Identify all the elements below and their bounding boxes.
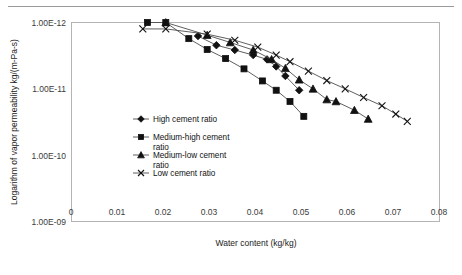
legend-label: Medium-high cement xyxy=(153,133,230,142)
series-2 xyxy=(162,19,372,123)
legend-label: Medium-low cement xyxy=(153,151,227,160)
marker-cross xyxy=(392,111,399,118)
marker-square xyxy=(287,98,293,104)
marker-cross xyxy=(273,52,280,59)
x-tick-label-8: 0.08 xyxy=(431,207,448,217)
marker-cross xyxy=(360,94,367,101)
marker-cross xyxy=(379,102,386,109)
series-layer xyxy=(139,19,410,125)
x-tick-label-5: 0.05 xyxy=(293,207,310,217)
marker-cross xyxy=(342,85,349,92)
y-tick-label-3: 1.00E-09 xyxy=(32,217,67,227)
chart-legend: High cement ratioMedium-high cementratio… xyxy=(133,115,230,178)
x-tick-label-2: 0.02 xyxy=(155,207,172,217)
series-3 xyxy=(139,25,410,124)
marker-square xyxy=(273,87,279,93)
marker-square xyxy=(223,56,229,62)
marker-cross xyxy=(231,37,238,44)
vapor-permeability-line-chart: 1.00E-12 1.00E-11 1.00E-10 1.00E-09 0 0.… xyxy=(0,0,462,275)
marker-cross xyxy=(404,118,411,125)
marker-square xyxy=(259,78,265,84)
series-line xyxy=(147,23,303,117)
marker-square xyxy=(204,46,210,52)
marker-square xyxy=(138,134,143,139)
marker-diamond xyxy=(138,116,145,123)
legend-label: High cement ratio xyxy=(153,115,218,124)
marker-cross xyxy=(254,44,261,51)
y-tick-label-2: 1.00E-10 xyxy=(32,151,67,161)
legend-item-3[interactable]: Low cement ratio xyxy=(133,169,216,178)
x-tick-label-4: 0.04 xyxy=(247,207,264,217)
x-axis-title: Water content (kg/kg) xyxy=(216,238,297,248)
marker-square xyxy=(144,20,150,26)
series-line xyxy=(143,29,408,121)
x-tick-label-0: 0 xyxy=(69,207,74,217)
series-0 xyxy=(194,32,303,94)
marker-triangle xyxy=(309,85,317,92)
marker-square xyxy=(241,66,247,72)
chart-figure: 1.00E-12 1.00E-11 1.00E-10 1.00E-09 0 0.… xyxy=(0,0,462,275)
y-axis-title: Logarithm of vapor permeability kg/(m-Pa… xyxy=(9,39,19,205)
marker-triangle xyxy=(282,64,290,71)
marker-square xyxy=(301,113,307,119)
legend-item-0[interactable]: High cement ratio xyxy=(133,115,218,124)
legend-item-1[interactable]: Medium-high cementratio xyxy=(133,133,230,152)
marker-triangle xyxy=(351,106,359,113)
x-tick-label-6: 0.06 xyxy=(339,207,356,217)
x-tick-label-7: 0.07 xyxy=(385,207,402,217)
y-tick-label-1: 1.00E-11 xyxy=(32,84,66,94)
marker-diamond xyxy=(231,46,239,54)
x-tick-label-3: 0.03 xyxy=(201,207,218,217)
marker-cross xyxy=(305,68,312,75)
marker-triangle xyxy=(364,115,372,122)
marker-square xyxy=(186,36,192,42)
marker-cross xyxy=(287,58,294,65)
marker-triangle xyxy=(323,96,331,103)
marker-diamond xyxy=(213,41,221,49)
marker-cross xyxy=(323,77,330,84)
x-tick-label-1: 0.01 xyxy=(109,207,126,217)
y-tick-label-0: 1.00E-12 xyxy=(32,18,67,28)
legend-label: Low cement ratio xyxy=(153,169,216,178)
legend-item-2[interactable]: Medium-low cementratio xyxy=(133,151,227,170)
